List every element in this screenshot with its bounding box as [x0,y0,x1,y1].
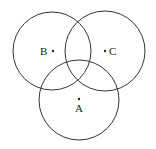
label-b: B [40,45,47,57]
label-a: A [75,102,83,114]
label-c: C [109,45,116,57]
venn-diagram: B C A [0,0,156,149]
point-b-dot [52,50,54,52]
point-c-dot [104,50,106,52]
point-a-dot [78,98,80,100]
